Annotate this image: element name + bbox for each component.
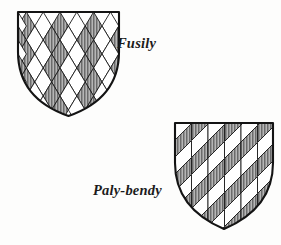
shield-fusily [10, 10, 136, 124]
shield-paly-bendy [173, 106, 275, 245]
heraldry-plate: Fusily Paly-bendy [0, 0, 281, 245]
figure-label-fusily: Fusily [117, 35, 156, 52]
figure-label-paly-bendy: Paly-bendy [93, 182, 162, 199]
paly-bendy-cells [175, 106, 274, 245]
paly-bendy-field [173, 106, 275, 245]
